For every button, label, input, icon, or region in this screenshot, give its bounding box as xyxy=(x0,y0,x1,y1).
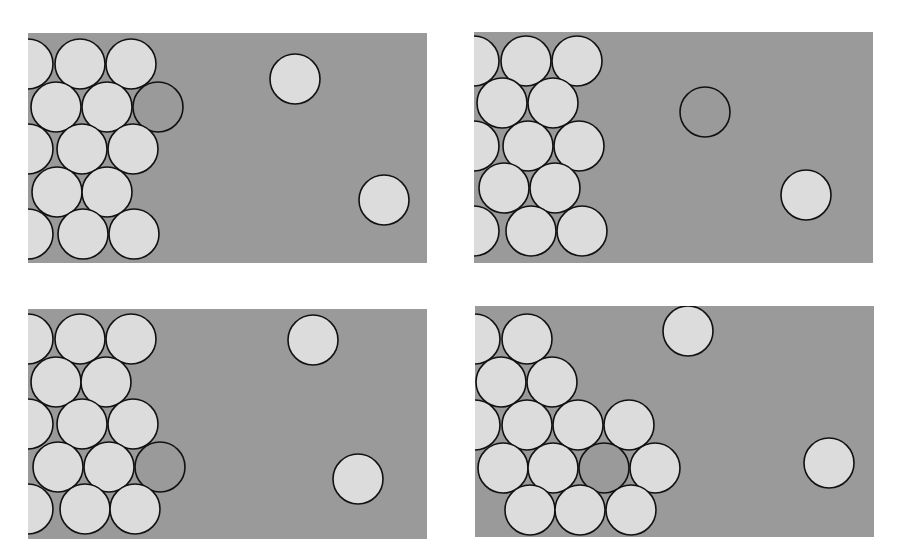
atom-light-circle xyxy=(449,36,499,86)
atom-light-circle xyxy=(606,485,656,535)
atom-light-circle xyxy=(3,484,53,534)
atom-light-circle xyxy=(108,124,158,174)
atom-light-circle xyxy=(3,314,53,364)
atom-light-circle xyxy=(478,443,528,493)
atom-light-circle xyxy=(333,454,383,504)
atom-light-circle xyxy=(505,485,555,535)
atom-light-circle xyxy=(530,163,580,213)
atom-light-circle xyxy=(450,314,500,364)
atom-light-circle xyxy=(3,39,53,89)
atom-light-circle xyxy=(106,314,156,364)
atom-light-circle xyxy=(58,209,108,259)
panel-top-left xyxy=(3,33,427,263)
atom-light-circle xyxy=(476,357,526,407)
atom-light-circle xyxy=(477,78,527,128)
atom-light-circle xyxy=(553,400,603,450)
atom-light-circle xyxy=(663,306,713,356)
atom-light-circle xyxy=(288,315,338,365)
atom-light-circle xyxy=(55,314,105,364)
atom-light-circle xyxy=(449,206,499,256)
atom-light-circle xyxy=(479,163,529,213)
atom-light-circle xyxy=(557,206,607,256)
panel-top-right xyxy=(449,32,873,263)
atom-light-circle xyxy=(60,484,110,534)
atom-light-circle xyxy=(3,209,53,259)
atom-light-circle xyxy=(450,400,500,450)
atom-light-circle xyxy=(110,484,160,534)
atom-light-circle xyxy=(781,170,831,220)
panel-bottom-left xyxy=(3,309,427,539)
atom-light-circle xyxy=(502,314,552,364)
atom-light-circle xyxy=(804,438,854,488)
atom-dark-circle xyxy=(680,87,730,137)
atom-light-circle xyxy=(32,167,82,217)
atom-light-circle xyxy=(57,124,107,174)
atom-light-circle xyxy=(359,175,409,225)
atom-light-circle xyxy=(109,209,159,259)
atom-light-circle xyxy=(502,400,552,450)
atom-light-circle xyxy=(31,82,81,132)
atom-light-circle xyxy=(449,121,499,171)
atom-light-circle xyxy=(31,357,81,407)
atom-light-circle xyxy=(506,206,556,256)
atom-light-circle xyxy=(604,400,654,450)
atom-light-circle xyxy=(528,78,578,128)
atom-light-circle xyxy=(57,399,107,449)
atom-light-circle xyxy=(55,39,105,89)
crystal-growth-diagram xyxy=(0,0,897,560)
atom-light-circle xyxy=(555,485,605,535)
atom-light-circle xyxy=(270,54,320,104)
atom-light-circle xyxy=(106,39,156,89)
atom-light-circle xyxy=(3,124,53,174)
atom-light-circle xyxy=(33,442,83,492)
atom-light-circle xyxy=(3,399,53,449)
atom-light-circle xyxy=(527,357,577,407)
panel-bottom-right xyxy=(450,306,874,537)
atom-light-circle xyxy=(108,399,158,449)
